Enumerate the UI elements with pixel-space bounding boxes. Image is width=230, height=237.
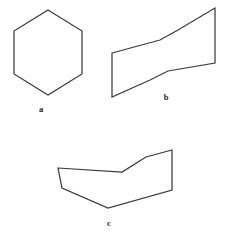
polygon-shape-b: [112, 8, 215, 97]
shape-label-b: b: [159, 93, 173, 102]
polygon-figure-canvas: [0, 0, 230, 237]
polygon-shape-a: [14, 10, 82, 95]
figure-container: a b c: [0, 0, 230, 237]
polygon-shape-c: [58, 150, 172, 208]
shape-label-c: c: [102, 219, 116, 228]
shape-label-a: a: [34, 105, 48, 114]
